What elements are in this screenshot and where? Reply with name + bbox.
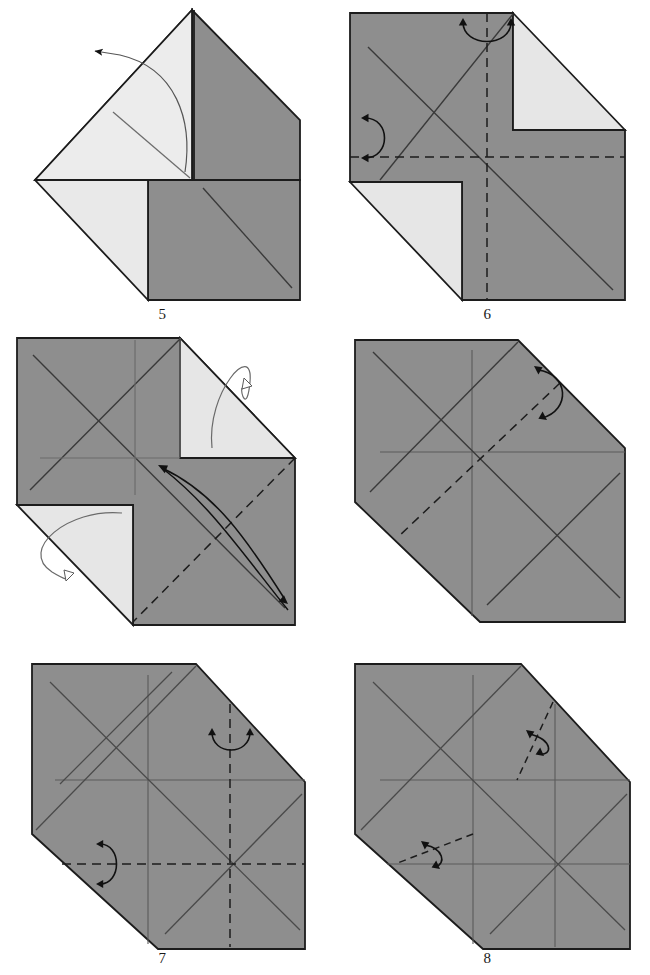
figure-step-7: 7: [0, 330, 325, 655]
panel7-light-upper-right: [180, 338, 295, 458]
figure-step-6: 6: [325, 0, 650, 325]
panel5-dark-square: [148, 180, 300, 300]
panel-caption-5: 5: [0, 306, 325, 323]
figure-step-9: 9: [0, 652, 325, 975]
panel10-body: [355, 664, 630, 949]
figure-step-10: 10: [325, 652, 650, 975]
diagram-page: 5: [0, 0, 650, 975]
panel-caption-6: 6: [325, 306, 650, 323]
panel9-body: [32, 664, 305, 949]
panel6-light-lower-left: [350, 182, 462, 300]
figure-step-8: 8: [325, 330, 650, 655]
panel7-light-lower-left: [17, 505, 133, 625]
figure-step-5: 5: [0, 0, 325, 325]
panel5-light-top-flap: [35, 10, 192, 180]
panel8-body: [355, 340, 625, 622]
panel6-light-upper-right: [513, 13, 625, 130]
panel5-dark-upper-right: [192, 10, 300, 180]
